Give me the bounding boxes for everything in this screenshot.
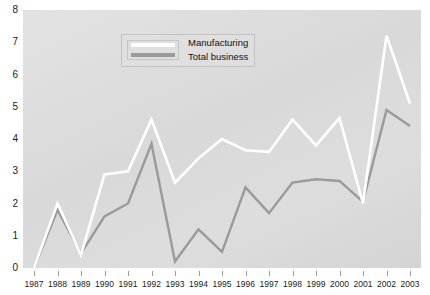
x-axis-tick-mark bbox=[363, 271, 364, 276]
x-axis-tick-label: 2002 bbox=[377, 280, 396, 289]
legend-swatch-total-business bbox=[131, 53, 175, 57]
series-line-manufacturing bbox=[34, 36, 410, 268]
x-axis-tick-mark bbox=[246, 271, 247, 276]
x-axis-tick-label: 1995 bbox=[213, 280, 232, 289]
x-axis-tick-mark bbox=[128, 271, 129, 276]
y-axis-tick-label: 3 bbox=[12, 166, 18, 176]
y-axis-tick-label: 5 bbox=[12, 102, 18, 112]
x-axis-tick-mark bbox=[175, 271, 176, 276]
x-axis-tick-mark bbox=[152, 271, 153, 276]
x-axis-tick-label: 1999 bbox=[307, 280, 326, 289]
x-axis-tick-label: 1992 bbox=[142, 280, 161, 289]
legend-label-total-business: Total business bbox=[188, 52, 248, 63]
line-chart: 012345678 ManufacturingTotal business 19… bbox=[0, 0, 430, 295]
x-axis-tick-mark bbox=[81, 271, 82, 276]
x-axis-tick-label: 1990 bbox=[95, 280, 114, 289]
x-axis-tick-label: 1996 bbox=[236, 280, 255, 289]
x-axis-tick-mark bbox=[222, 271, 223, 276]
y-axis-tick-label: 8 bbox=[12, 5, 18, 15]
x-axis-tick-mark bbox=[58, 271, 59, 276]
x-axis-tick-mark bbox=[269, 271, 270, 276]
chart-legend: ManufacturingTotal business bbox=[121, 34, 255, 67]
x-axis-tick-mark bbox=[316, 271, 317, 276]
y-axis: 012345678 bbox=[0, 0, 23, 268]
plot-area: ManufacturingTotal business bbox=[23, 10, 421, 268]
series-line-total-business bbox=[34, 110, 410, 268]
x-axis-tick-mark bbox=[293, 271, 294, 276]
y-axis-tick-label: 2 bbox=[12, 199, 18, 209]
x-axis-tick-label: 1988 bbox=[48, 280, 67, 289]
x-axis-tick-label: 1989 bbox=[72, 280, 91, 289]
x-axis-tick-mark bbox=[199, 271, 200, 276]
x-axis-tick-label: 2003 bbox=[401, 280, 420, 289]
x-axis-tick-label: 2001 bbox=[354, 280, 373, 289]
x-axis: 1987198819891990199119921993199419951996… bbox=[0, 271, 430, 295]
x-axis-tick-label: 1993 bbox=[166, 280, 185, 289]
x-axis-tick-label: 1997 bbox=[260, 280, 279, 289]
x-axis-tick-label: 1987 bbox=[25, 280, 44, 289]
legend-swatch-box bbox=[127, 40, 179, 60]
y-axis-tick-label: 6 bbox=[12, 70, 18, 80]
x-axis-tick-mark bbox=[340, 271, 341, 276]
y-axis-tick-label: 1 bbox=[12, 231, 18, 241]
legend-swatch-manufacturing bbox=[131, 43, 175, 47]
legend-label-list: ManufacturingTotal business bbox=[188, 38, 248, 63]
x-axis-tick-label: 2000 bbox=[330, 280, 349, 289]
x-axis-tick-label: 1994 bbox=[189, 280, 208, 289]
x-axis-tick-mark bbox=[105, 271, 106, 276]
y-axis-tick-label: 7 bbox=[12, 37, 18, 47]
x-axis-tick-label: 1991 bbox=[119, 280, 138, 289]
x-axis-tick-label: 1998 bbox=[283, 280, 302, 289]
x-axis-tick-mark bbox=[387, 271, 388, 276]
y-axis-tick-label: 4 bbox=[12, 134, 18, 144]
x-axis-tick-mark bbox=[410, 271, 411, 276]
legend-label-manufacturing: Manufacturing bbox=[188, 38, 248, 49]
x-axis-tick-mark bbox=[34, 271, 35, 276]
